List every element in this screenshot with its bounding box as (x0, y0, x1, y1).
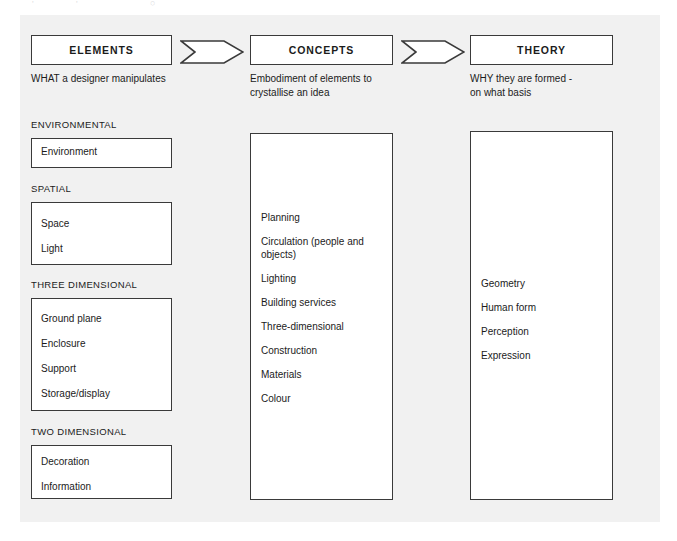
header-label-theory: THEORY (517, 44, 566, 56)
list-item: Storage/display (41, 387, 166, 400)
list-item: Expression (481, 349, 605, 362)
list-item: Environment (41, 145, 166, 158)
list-item: Information (41, 480, 166, 493)
list-item: Decoration (41, 455, 166, 468)
list-item: Perception (481, 325, 605, 338)
group-items-spatial: Space Light (41, 217, 166, 255)
header-label-elements: ELEMENTS (69, 44, 133, 56)
group-label-three-dimensional: THREE DIMENSIONAL (31, 279, 137, 290)
group-label-spatial: SPATIAL (31, 183, 71, 194)
subtitle-concepts: Embodiment of elements to crystallise an… (250, 72, 420, 100)
theory-item-list: Geometry Human form Perception Expressio… (481, 277, 605, 362)
group-items-environmental: Environment (41, 145, 166, 158)
subtitle-elements: WHAT a designer manipulates (31, 72, 221, 86)
header-box-concepts: CONCEPTS (250, 35, 393, 65)
list-item: Construction (261, 344, 385, 357)
list-item: Materials (261, 368, 385, 381)
header-label-concepts: CONCEPTS (289, 44, 355, 56)
diagram-sheet: ELEMENTS CONCEPTS THEORY WHAT a designer… (20, 15, 660, 522)
group-items-three-dimensional: Ground plane Enclosure Support Storage/d… (41, 312, 166, 400)
subtitle-theory: WHY they are formed - on what basis (470, 72, 640, 100)
concepts-item-list: Planning Circulation (people and objects… (261, 211, 385, 405)
group-label-two-dimensional: TWO DIMENSIONAL (31, 426, 127, 437)
list-item: Enclosure (41, 337, 166, 350)
list-item: Human form (481, 301, 605, 314)
list-item: Geometry (481, 277, 605, 290)
list-item: Lighting (261, 272, 385, 285)
list-item: Planning (261, 211, 385, 224)
header-box-theory: THEORY (470, 35, 613, 65)
list-item: Light (41, 242, 166, 255)
list-item: Circulation (people and objects) (261, 235, 385, 261)
header-box-elements: ELEMENTS (31, 35, 172, 65)
list-item: Building services (261, 296, 385, 309)
group-items-two-dimensional: Decoration Information (41, 455, 166, 493)
list-item: Ground plane (41, 312, 166, 325)
group-label-environmental: ENVIRONMENTAL (31, 119, 117, 130)
list-item: Space (41, 217, 166, 230)
ghost-mark: ' (76, 0, 78, 9)
ghost-mark: ○ (150, 0, 155, 8)
list-item: Support (41, 362, 166, 375)
ghost-mark: ' (32, 0, 34, 9)
list-item: Colour (261, 392, 385, 405)
arrow-elements-to-concepts (180, 40, 244, 64)
list-item: Three-dimensional (261, 320, 385, 333)
arrow-concepts-to-theory (401, 40, 465, 64)
